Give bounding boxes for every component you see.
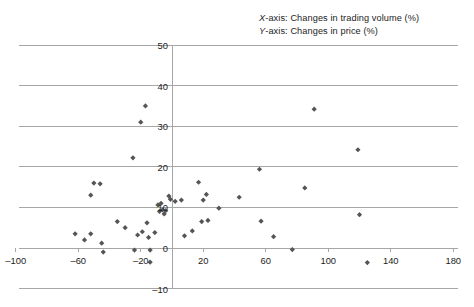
data-markers bbox=[73, 103, 370, 265]
data-point bbox=[88, 193, 93, 198]
data-point bbox=[152, 230, 157, 235]
data-point bbox=[82, 237, 87, 242]
data-point bbox=[204, 192, 209, 197]
y-tick-label-40: 40 bbox=[140, 80, 168, 91]
x-tick-label-100: 100 bbox=[320, 255, 336, 266]
y-tick-label--10: –10 bbox=[140, 283, 168, 294]
data-point bbox=[205, 218, 210, 223]
data-point bbox=[199, 219, 204, 224]
data-point bbox=[312, 107, 317, 112]
data-point bbox=[216, 206, 221, 211]
x-tick-label-180: 180 bbox=[445, 255, 461, 266]
data-point bbox=[91, 180, 96, 185]
y-tick-label-10: 10 bbox=[140, 202, 168, 213]
x-tick-label-60: 60 bbox=[261, 255, 271, 266]
data-point bbox=[143, 103, 148, 108]
scatter-chart: X-axis: Changes in trading volume (%) Y-… bbox=[0, 0, 474, 307]
data-point bbox=[302, 185, 307, 190]
data-point bbox=[179, 197, 184, 202]
data-point bbox=[257, 167, 262, 172]
data-point bbox=[88, 231, 93, 236]
data-point bbox=[201, 197, 206, 202]
data-point bbox=[135, 232, 140, 237]
data-point bbox=[115, 219, 120, 224]
data-point bbox=[123, 225, 128, 230]
y-tick-label-20: 20 bbox=[140, 161, 168, 172]
data-point bbox=[130, 155, 135, 160]
x-tick-label--20: –20 bbox=[133, 255, 149, 266]
data-point bbox=[258, 219, 263, 224]
data-point bbox=[196, 180, 201, 185]
y-tick-label-0: 0 bbox=[140, 243, 168, 254]
data-point bbox=[99, 241, 104, 246]
data-point bbox=[190, 228, 195, 233]
data-point bbox=[101, 249, 106, 254]
data-point bbox=[173, 199, 178, 204]
data-point bbox=[365, 260, 370, 265]
data-point bbox=[98, 181, 103, 186]
y-tick-label-30: 30 bbox=[140, 121, 168, 132]
data-point bbox=[146, 235, 151, 240]
data-point bbox=[357, 212, 362, 217]
data-point bbox=[182, 233, 187, 238]
data-point bbox=[271, 234, 276, 239]
x-tick-label--60: –60 bbox=[70, 255, 86, 266]
y-tick-label-50: 50 bbox=[140, 40, 168, 51]
x-tick-label-140: 140 bbox=[383, 255, 399, 266]
gridlines bbox=[19, 45, 458, 289]
x-tick-label--100: –100 bbox=[5, 255, 26, 266]
data-point bbox=[140, 229, 145, 234]
data-point bbox=[73, 231, 78, 236]
data-point bbox=[144, 220, 149, 225]
x-tick-label-20: 20 bbox=[198, 255, 208, 266]
data-point bbox=[237, 195, 242, 200]
data-point bbox=[355, 147, 360, 152]
